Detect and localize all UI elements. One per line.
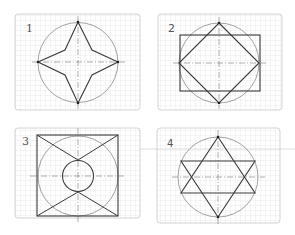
panel-3-label: 3: [22, 135, 29, 148]
panel-4: 4: [157, 128, 280, 225]
panel-4-label: 4: [167, 138, 173, 149]
panel-3: 3: [15, 128, 140, 224]
panel-1: 1: [15, 14, 140, 110]
diagram-canvas: 1 2 3 4: [0, 0, 295, 235]
panel-2: 2: [158, 14, 282, 110]
panel-2-label: 2: [168, 22, 175, 35]
panel-1-label: 1: [26, 22, 33, 35]
